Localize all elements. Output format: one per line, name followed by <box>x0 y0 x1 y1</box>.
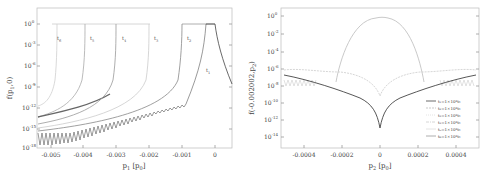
curves <box>284 17 476 128</box>
curves <box>38 24 232 145</box>
x-tick: -0.002 <box>139 151 158 158</box>
left-chart-svg: 100 10-3 10-6 10-9 10-12 10-15 10-18 f(p… <box>0 0 240 176</box>
svg-text:100: 100 <box>267 11 278 19</box>
right-chart: 100 10-2 10-4 10-6 10-8 10-10 10-12 10-1… <box>240 0 481 176</box>
svg-text:10-12: 10-12 <box>264 115 279 123</box>
svg-text:t6: t6 <box>57 35 61 43</box>
x-tick: 0 <box>213 151 217 158</box>
y-axis-label: f(p1,0) <box>6 77 15 100</box>
x-tick: 0.0004 <box>446 151 467 158</box>
y-tick: 100 10-3 10-6 10-9 10-12 10-15 10-18 <box>22 19 37 151</box>
svg-text:10-4: 10-4 <box>267 47 279 55</box>
x-tick: -0.005 <box>41 151 60 158</box>
y-axis-label: f(-0.002002,p2) <box>248 61 257 115</box>
svg-text:100: 100 <box>24 19 35 27</box>
svg-text:t3: t3 <box>154 35 158 43</box>
svg-text:10-6: 10-6 <box>24 61 36 69</box>
x-tick: -0.003 <box>106 151 125 158</box>
curve-t4 <box>38 24 116 124</box>
svg-text:t2: t2 <box>187 35 191 43</box>
svg-text:t1: t1 <box>206 67 210 75</box>
legend-entry: t₅=1×10⁴t₀ <box>438 127 461 132</box>
svg-text:10-2: 10-2 <box>267 29 279 37</box>
curve-oscillating-left <box>284 80 316 86</box>
legend-entry: t₂=1×10⁴t₀ <box>438 106 461 111</box>
x-tick: -0.0004 <box>292 151 315 158</box>
svg-text:10-12: 10-12 <box>22 103 37 111</box>
x-axis: -0.0004 -0.0002 0 0.0002 0.0004 <box>292 145 466 158</box>
x-axis-label: p1 [p0] <box>122 162 145 171</box>
x-tick: 0.0002 <box>408 151 429 158</box>
curve-labels: t6 t5 t4 t3 t2 t1 <box>57 35 210 75</box>
svg-text:10-10: 10-10 <box>264 98 279 106</box>
svg-text:10-14: 10-14 <box>264 132 279 140</box>
curve-t1 <box>38 24 206 145</box>
svg-text:t5: t5 <box>90 35 94 43</box>
x-tick: -0.004 <box>73 151 92 158</box>
x-tick: -0.001 <box>172 151 191 158</box>
curve-t5 <box>38 24 85 117</box>
legend-entry: t₆=1×10⁴t₀ <box>438 134 461 139</box>
legend-entry: t₄=1×10⁴t₀ <box>438 120 461 125</box>
legend-entry: t₃=1×10⁴t₀ <box>438 113 461 118</box>
svg-text:10-15: 10-15 <box>22 124 37 132</box>
svg-text:t4: t4 <box>122 35 127 43</box>
svg-text:10-18: 10-18 <box>22 143 37 151</box>
left-chart: 100 10-3 10-6 10-9 10-12 10-15 10-18 f(p… <box>0 0 240 176</box>
svg-text:10-3: 10-3 <box>24 40 36 48</box>
y-axis: 100 10-3 10-6 10-9 10-12 10-15 10-18 <box>22 19 232 151</box>
curve-t1-right <box>206 24 232 84</box>
svg-text:10-9: 10-9 <box>24 82 36 90</box>
x-tick: -0.0002 <box>330 151 353 158</box>
svg-text:10-8: 10-8 <box>267 81 279 89</box>
svg-text:10-6: 10-6 <box>267 64 279 72</box>
x-axis: -0.005 -0.004 -0.003 -0.002 -0.001 0 <box>41 145 217 158</box>
legend: t₁=1×10⁴t₀ t₂=1×10⁴t₀ t₃=1×10⁴t₀ t₄=1×10… <box>426 99 461 139</box>
x-tick: 0 <box>378 151 382 158</box>
curve-bell <box>336 17 424 82</box>
right-chart-svg: 100 10-2 10-4 10-6 10-8 10-10 10-12 10-1… <box>240 0 481 176</box>
x-axis-label: p2 [p0] <box>368 162 391 171</box>
curve-oscillating-right <box>440 80 474 86</box>
legend-entry: t₁=1×10⁴t₀ <box>438 99 461 104</box>
curve-t6 <box>38 24 57 106</box>
